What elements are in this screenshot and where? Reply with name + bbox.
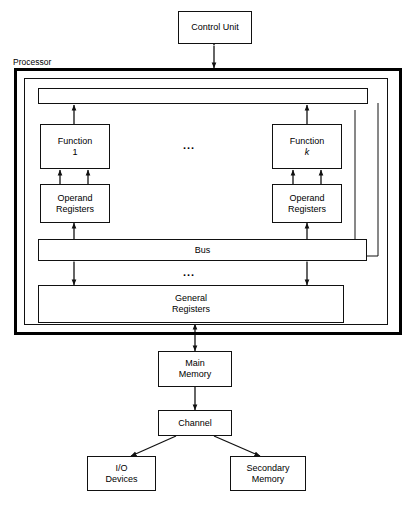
general-registers-box[interactable]: General Registers bbox=[38, 285, 344, 323]
io-devices-label: I/O Devices bbox=[105, 463, 137, 485]
function-1-label: Function bbox=[58, 136, 93, 147]
io-devices-box[interactable]: I/O Devices bbox=[87, 456, 156, 491]
operand-registers-left-box[interactable]: Operand Registers bbox=[40, 184, 110, 223]
processor-label: Processor bbox=[13, 57, 51, 67]
function-k-box[interactable]: Function k bbox=[272, 124, 342, 169]
channel-box[interactable]: Channel bbox=[158, 410, 232, 436]
main-memory-box[interactable]: Main Memory bbox=[158, 351, 232, 387]
function-k-index: k bbox=[305, 147, 310, 158]
functions-ellipsis: ... bbox=[183, 140, 195, 151]
operand-registers-right-label: Operand Registers bbox=[288, 193, 326, 215]
control-unit-box[interactable]: Control Unit bbox=[178, 11, 252, 44]
arrow-channel-secondarymemory bbox=[214, 436, 260, 456]
bus-label: Bus bbox=[195, 245, 211, 256]
channel-label: Channel bbox=[178, 418, 212, 429]
control-unit-label: Control Unit bbox=[191, 22, 239, 33]
result-bar bbox=[38, 88, 368, 104]
function-1-box[interactable]: Function 1 bbox=[40, 124, 110, 169]
secondary-memory-label: Secondary Memory bbox=[246, 463, 289, 485]
arrow-channel-iodevices bbox=[131, 436, 176, 456]
diagram-canvas: Processor top edge (double headed) --> bbox=[0, 0, 416, 505]
bus-ellipsis: ... bbox=[183, 267, 195, 278]
main-memory-label: Main Memory bbox=[179, 358, 212, 380]
operand-registers-right-box[interactable]: Operand Registers bbox=[272, 184, 342, 223]
general-registers-label: General Registers bbox=[172, 293, 210, 315]
bus-box[interactable]: Bus bbox=[38, 239, 367, 261]
function-1-index: 1 bbox=[72, 147, 77, 158]
function-k-label: Function bbox=[290, 136, 325, 147]
operand-registers-left-label: Operand Registers bbox=[56, 193, 94, 215]
secondary-memory-box[interactable]: Secondary Memory bbox=[230, 456, 306, 491]
